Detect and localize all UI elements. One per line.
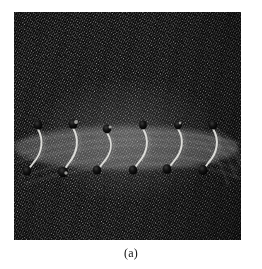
lower-pole-6 (198, 165, 207, 175)
upper-pole-4 (139, 121, 147, 130)
field-line-overlay (14, 12, 241, 240)
figure-container: (a) (0, 0, 262, 269)
upper-pole-6 (209, 120, 217, 129)
lower-pole-4 (129, 165, 137, 174)
lower-pole-5 (163, 164, 172, 174)
figure-caption: (a) (0, 246, 262, 261)
lower-pole-3 (93, 165, 101, 174)
magnetic-field-photograph (14, 12, 241, 240)
upper-pole-1 (34, 120, 42, 129)
lower-pole-1 (23, 166, 32, 176)
flux-band-glow (14, 126, 238, 170)
